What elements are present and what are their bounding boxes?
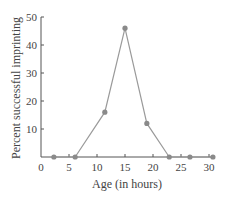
x-tick-label: 20 xyxy=(148,161,160,173)
y-tick-label: 30 xyxy=(26,67,38,79)
x-tick-label: 30 xyxy=(204,161,216,173)
x-axis-label: Age (in hours) xyxy=(92,177,162,191)
data-series xyxy=(51,26,215,160)
data-point xyxy=(51,154,56,159)
data-point xyxy=(167,154,172,159)
data-point xyxy=(210,154,215,159)
data-point xyxy=(73,154,78,159)
series-line xyxy=(54,28,213,157)
x-tick-label: 5 xyxy=(66,161,72,173)
y-tick-label: 10 xyxy=(26,123,38,135)
data-point xyxy=(122,26,127,31)
x-tick-label: 25 xyxy=(176,161,188,173)
y-tick-label: 40 xyxy=(26,39,38,51)
line-chart: 1020304050051015202530 Age (in hours) Pe… xyxy=(0,0,233,198)
x-tick-label: 10 xyxy=(92,161,104,173)
x-tick-label: 15 xyxy=(120,161,132,173)
x-tick-label: 0 xyxy=(38,161,44,173)
y-tick-label: 20 xyxy=(26,95,38,107)
data-point xyxy=(102,110,107,115)
data-point xyxy=(187,154,192,159)
data-point xyxy=(144,121,149,126)
y-axis-label: Percent successful imprinting xyxy=(9,17,23,159)
y-tick-label: 50 xyxy=(26,11,38,23)
axes: 1020304050051015202530 xyxy=(26,11,215,173)
